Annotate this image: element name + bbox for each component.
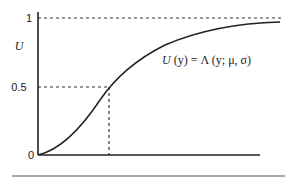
tick-label-1: 1	[26, 12, 32, 24]
cdf-diagram: 1 0.5 0 U U (y) = Λ (y; μ, σ)	[0, 0, 298, 178]
y-axis-label: U	[15, 39, 25, 53]
formula-annotation: U (y) = Λ (y; μ, σ)	[162, 53, 251, 67]
cdf-curve	[38, 22, 280, 155]
tick-label-0-5: 0.5	[11, 81, 26, 93]
formula-rest: (y) = Λ (y; μ, σ)	[171, 53, 251, 67]
tick-label-0: 0	[28, 149, 34, 161]
